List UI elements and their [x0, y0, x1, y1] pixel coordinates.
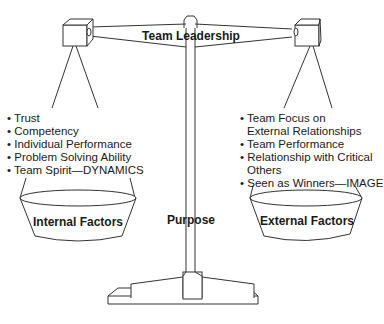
- list-item-continuation: External Relationships: [247, 125, 362, 137]
- post-label: Purpose: [167, 213, 215, 227]
- list-item: • Competency: [7, 125, 79, 137]
- left-pivot-cube: [63, 19, 93, 46]
- internal-factors-list: • Trust • Competency • Individual Perfor…: [7, 112, 144, 176]
- list-item-continuation: Others: [247, 164, 282, 176]
- external-factors-list: • Team Focus on External Relationships •…: [240, 112, 384, 189]
- right-pan-label: External Factors: [260, 214, 354, 228]
- list-item: • Seen as Winners—IMAGE: [240, 177, 384, 189]
- list-item: • Team Spirit—DYNAMICS: [7, 164, 144, 176]
- scale-base: [108, 272, 258, 304]
- list-item: • Trust: [7, 112, 41, 124]
- center-post: [184, 16, 197, 272]
- right-pivot-cube: [294, 19, 321, 46]
- list-item: • Team Focus on: [240, 112, 326, 124]
- beam-label: Team Leadership: [142, 29, 240, 43]
- list-item: • Individual Performance: [7, 138, 132, 150]
- list-item: • Problem Solving Ability: [7, 151, 131, 163]
- list-item: • Relationship with Critical: [240, 151, 373, 163]
- balance-scale-diagram: Team Leadership Purpose • Trust • Compet…: [0, 0, 384, 324]
- list-item: • Team Performance: [240, 138, 344, 150]
- left-pan-label: Internal Factors: [33, 215, 123, 229]
